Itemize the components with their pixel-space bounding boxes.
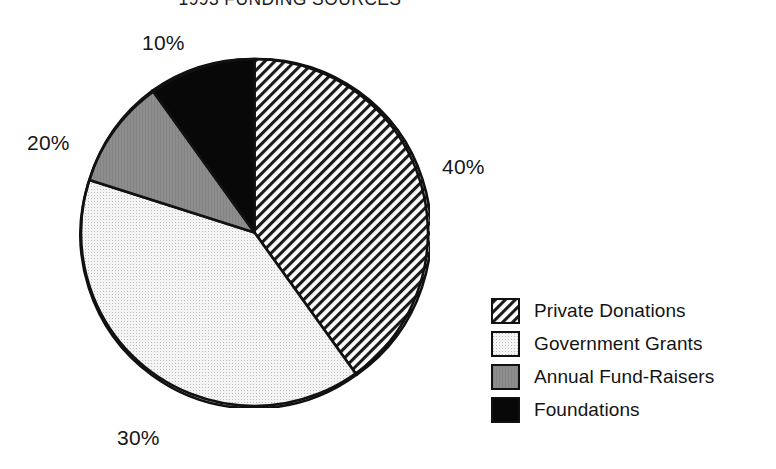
legend-label-foundations: Foundations <box>534 399 640 421</box>
pie-svg <box>79 57 430 408</box>
pie-label-private-donations: 40% <box>442 155 485 179</box>
pie-chart-graphic <box>79 57 430 408</box>
legend-item-foundations[interactable]: Foundations <box>491 393 714 426</box>
legend-item-annual-fund-raisers[interactable]: Annual Fund-Raisers <box>491 360 714 393</box>
legend-label-private-donations: Private Donations <box>534 300 686 322</box>
gray-solid-swatch-icon <box>491 364 520 390</box>
legend-label-government-grants: Government Grants <box>534 333 703 355</box>
pie-label-foundations: 10% <box>142 31 185 55</box>
pie-chart-figure: 1993 FUNDING SOURCES <box>0 0 776 469</box>
black-solid-swatch-icon <box>491 397 520 423</box>
chart-legend: Private Donations Government Grants Annu… <box>491 294 714 426</box>
legend-item-government-grants[interactable]: Government Grants <box>491 327 714 360</box>
legend-item-private-donations[interactable]: Private Donations <box>491 294 714 327</box>
diagonal-hatch-swatch-icon <box>491 298 520 324</box>
pie-label-government-grants: 30% <box>117 426 160 450</box>
light-dotted-swatch-icon <box>491 331 520 357</box>
pie-label-annual-fund-raisers: 20% <box>27 131 70 155</box>
legend-label-annual-fund-raisers: Annual Fund-Raisers <box>534 366 714 388</box>
chart-title: 1993 FUNDING SOURCES <box>0 0 580 10</box>
